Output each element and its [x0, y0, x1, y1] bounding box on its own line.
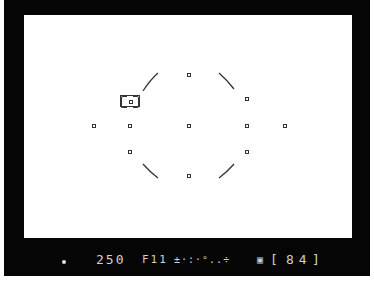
aperture: F11	[142, 253, 168, 266]
af-point-icon[interactable]	[187, 73, 191, 77]
af-point-icon[interactable]	[128, 150, 132, 154]
af-point-icon[interactable]	[283, 124, 287, 128]
frame-count-close: ]	[312, 253, 322, 266]
af-point-icon[interactable]	[92, 124, 96, 128]
selected-af-point[interactable]	[120, 95, 140, 107]
frame-count: 84	[286, 253, 312, 266]
frame-count-open: [	[270, 253, 280, 266]
af-point-icon[interactable]	[187, 124, 191, 128]
metering-mode-icon: ▣	[257, 253, 265, 266]
af-point-icon[interactable]	[128, 124, 132, 128]
af-point-icon[interactable]	[245, 150, 249, 154]
bracket-right-icon	[133, 96, 139, 108]
exposure-indicator-icon: ±·:·ᵒ..÷	[174, 253, 230, 266]
af-point-icon	[129, 100, 133, 104]
focus-indicator-dot-icon	[62, 260, 66, 264]
status-bar: 250 F11 ±·:·ᵒ..÷ ▣ [ 84 ]	[4, 238, 370, 276]
af-point-icon[interactable]	[245, 124, 249, 128]
shutter-speed: 250	[96, 253, 125, 266]
af-point-icon[interactable]	[187, 174, 191, 178]
bracket-left-icon	[121, 96, 127, 108]
af-point-icon[interactable]	[245, 97, 249, 101]
